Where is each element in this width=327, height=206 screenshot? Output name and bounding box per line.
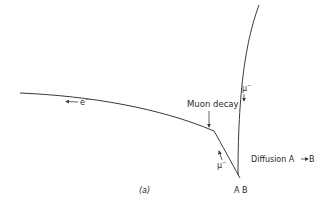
panel-label: (a): [139, 186, 150, 195]
muon-decay-diagram: e− Muon decay μ− μ− Diffusion A B A B (a…: [0, 0, 327, 206]
electron-direction-arrow-icon: [66, 102, 78, 103]
electron-track: [20, 93, 214, 131]
muon-track-a: [214, 131, 240, 178]
site-labels: A B: [234, 186, 248, 195]
muon-left-label: μ−: [217, 159, 226, 170]
muon-right-label: μ−: [242, 82, 251, 93]
muon-decay-label: Muon decay: [187, 99, 239, 109]
electron-label: e−: [80, 96, 89, 107]
diffusion-target-label: B: [309, 155, 315, 164]
diffusion-label: Diffusion A: [251, 155, 295, 164]
